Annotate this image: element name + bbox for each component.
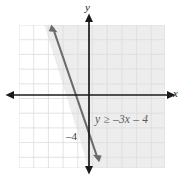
- x-axis-label: x: [173, 88, 178, 99]
- y-axis-arrow-up: [85, 14, 93, 23]
- y-axis-arrow-down: [85, 166, 93, 175]
- graph-canvas: [0, 0, 183, 178]
- y-axis-label: y: [85, 2, 90, 13]
- x-axis-arrow-left: [6, 91, 15, 99]
- coordinate-plane-figure: y x –4 y ≥ –3x – 4: [0, 0, 183, 178]
- inequality-annotation-label: y ≥ –3x – 4: [95, 114, 148, 126]
- y-intercept-tick-label: –4: [66, 131, 77, 142]
